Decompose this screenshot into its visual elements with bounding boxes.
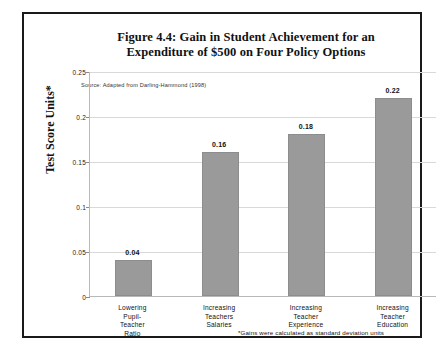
bar-value-label-4: 0.22 — [363, 87, 423, 94]
category-label-line: Teachers — [176, 313, 262, 322]
y-axis-tick-label: 0 — [52, 294, 86, 301]
chart-title-line-1: Figure 4.4: Gain in Student Achievement … — [54, 30, 437, 45]
bar-value-label-1: 0.04 — [102, 249, 162, 256]
category-label-line: Lowering — [89, 304, 175, 313]
x-axis-category-label-2: IncreasingTeachersSalaries — [176, 304, 262, 330]
category-label-line: Ratio — [89, 330, 175, 339]
category-label-line: Increasing — [176, 304, 262, 313]
bar-value-label-2: 0.16 — [189, 141, 249, 148]
bar-2[interactable] — [202, 152, 239, 296]
y-axis-tick-label: 0.15 — [52, 159, 86, 166]
y-axis-tick-label: 0.1 — [52, 204, 86, 211]
category-label-line: Increasing — [263, 304, 349, 313]
y-axis-tick-label: 0.25 — [52, 69, 86, 76]
chart-title-line-2: Expenditure of $500 on Four Policy Optio… — [54, 45, 437, 60]
gridline — [90, 72, 436, 73]
category-label-line: Increasing — [350, 304, 436, 313]
footnote: *Gains were calculated as standard devia… — [238, 329, 384, 336]
x-axis-category-label-3: IncreasingTeacherExperience — [263, 304, 349, 330]
bar-1[interactable] — [115, 260, 152, 296]
y-axis-tick-mark — [86, 297, 90, 298]
bar-value-label-3: 0.18 — [276, 123, 336, 130]
y-axis-tick-label: 0.2 — [52, 114, 86, 121]
category-label-line: Teacher — [350, 313, 436, 322]
plot-area — [89, 72, 436, 297]
bar-4[interactable] — [375, 98, 412, 296]
category-label-line: Teacher — [89, 321, 175, 330]
x-axis-category-label-4: IncreasingTeacherEducation — [350, 304, 436, 330]
category-label-line: Teacher — [263, 313, 349, 322]
category-label-line: Pupil- — [89, 313, 175, 322]
y-axis-ticks: 0.250.20.150.10.050 — [48, 72, 86, 297]
bar-3[interactable] — [288, 134, 325, 296]
figure-frame: Figure 4.4: Gain in Student Achievement … — [22, 12, 422, 338]
x-axis-category-label-1: LoweringPupil-TeacherRatio — [89, 304, 175, 338]
chart-title: Figure 4.4: Gain in Student Achievement … — [54, 30, 437, 60]
y-axis-tick-label: 0.05 — [52, 249, 86, 256]
